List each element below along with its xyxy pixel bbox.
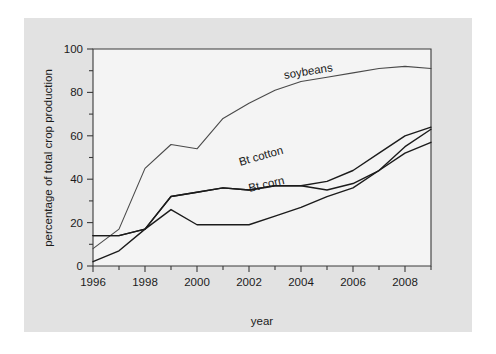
y-tick-label: 40 (70, 173, 83, 185)
y-tick-labels: 020406080100 (64, 43, 83, 272)
y-tick-label: 20 (70, 217, 83, 229)
x-tick-labels: 1996199820002002200420062008 (80, 276, 418, 288)
y-axis-ticks (87, 49, 93, 266)
x-axis-title: year (251, 315, 274, 327)
x-tick-label: 1996 (80, 276, 106, 288)
x-tick-label: 2002 (236, 276, 262, 288)
y-tick-label: 60 (70, 130, 83, 142)
x-tick-label: 2000 (184, 276, 210, 288)
x-axis-ticks (93, 266, 431, 272)
y-tick-label: 0 (77, 260, 83, 272)
y-axis-title: percentage of total crop production (42, 69, 54, 247)
x-tick-label: 1998 (132, 276, 158, 288)
x-tick-label: 2008 (392, 276, 418, 288)
y-tick-label: 80 (70, 86, 83, 98)
x-tick-label: 2004 (288, 276, 314, 288)
chart-page: 1996199820002002200420062008 02040608010… (0, 0, 496, 354)
y-tick-label: 100 (64, 43, 83, 55)
x-tick-label: 2006 (340, 276, 366, 288)
line-chart: 1996199820002002200420062008 02040608010… (0, 0, 496, 354)
